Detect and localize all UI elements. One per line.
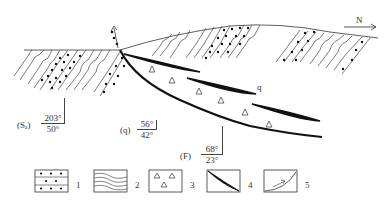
legend-number-3: 3 [190, 180, 195, 190]
legend [35, 170, 297, 192]
vein-label-q: q [257, 82, 262, 92]
breccia-triangles [149, 66, 272, 127]
quartz-veins [124, 54, 320, 121]
attitude-dip-F: 23° [201, 155, 223, 165]
legend-number-5: 5 [305, 180, 310, 190]
legend-number-2: 2 [135, 180, 140, 190]
folded-strata-right [152, 25, 370, 74]
attitude-dip-q: 42° [137, 130, 157, 140]
legend-number-4: 4 [248, 180, 253, 190]
attitude-F: 68° 23° [201, 144, 223, 165]
attitude-leader-line [222, 126, 223, 155]
attitude-strike-Sa: 203° [41, 113, 65, 124]
legend-number-1: 1 [76, 180, 81, 190]
sandstone-dots-left [41, 31, 125, 94]
attitude-leader-line [156, 120, 157, 130]
attitude-strike-F: 68° [201, 144, 223, 155]
ground-surface [24, 25, 378, 50]
attitude-leader-line [64, 98, 65, 124]
attitude-Sa: 203° 50° [41, 113, 65, 134]
attitude-q: 56° 42° [137, 119, 157, 140]
attitude-dip-Sa: 50° [41, 124, 65, 134]
attitude-label-Sa: (Sₐ) [17, 121, 30, 130]
geologic-cross-section: N q [0, 0, 385, 210]
attitude-strike-q: 56° [137, 119, 157, 130]
north-label: N [356, 15, 363, 25]
attitude-label-q: (q) [120, 126, 131, 135]
legend-symbol-sandstone [35, 170, 68, 192]
legend-symbol-folded-strata [94, 170, 127, 192]
folded-strata-left [14, 50, 124, 96]
legend-symbol-quartz-vein [207, 170, 240, 192]
legend-symbol-breccia [149, 170, 182, 192]
attitude-label-F: (F) [180, 152, 191, 161]
legend-symbol-thrust-fault [264, 170, 297, 192]
